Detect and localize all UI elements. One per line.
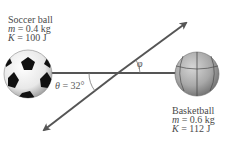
basketball-icon bbox=[175, 52, 219, 96]
soccer-ball-energy: K = 100 J bbox=[8, 33, 53, 42]
basketball-energy: K = 112 J bbox=[172, 124, 215, 133]
theta-label: θ = 32° bbox=[55, 80, 85, 91]
basketball-label: Basketball m = 0.6 kg K = 112 J bbox=[172, 106, 215, 133]
energy-value: = 112 J bbox=[179, 123, 211, 134]
diagonal-arrow-up bbox=[118, 23, 186, 73]
energy-value: = 100 J bbox=[15, 32, 47, 43]
soccer-ball-icon bbox=[4, 50, 52, 98]
energy-symbol: K bbox=[172, 123, 179, 134]
energy-symbol: K bbox=[8, 32, 15, 43]
phi-label: φ bbox=[137, 58, 143, 69]
soccer-ball-label: Soccer ball m = 0.4 kg K = 100 J bbox=[8, 15, 53, 42]
theta-arc bbox=[89, 73, 95, 91]
theta-value: = 32° bbox=[60, 80, 85, 91]
